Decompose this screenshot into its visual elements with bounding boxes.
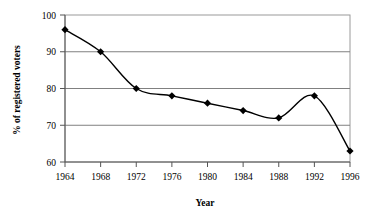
y-tick-label-60: 60	[47, 158, 57, 168]
x-tick-label-1972: 1972	[127, 172, 146, 182]
y-tick-label-80: 80	[47, 84, 57, 94]
x-axis-tick-labels: 1964 1968 1972 1976 1980 1984 1988 1992 …	[56, 172, 360, 182]
chart-canvas: 100 90 80 70 60 1964 1968 1972 1976 1980…	[0, 0, 371, 220]
x-tick-label-1980: 1980	[198, 172, 217, 182]
x-tick-label-1964: 1964	[56, 172, 75, 182]
y-axis-title: % of registered voters	[12, 45, 22, 135]
x-axis-title: Year	[196, 198, 216, 208]
x-tick-label-1976: 1976	[162, 172, 181, 182]
line-chart-figure: 100 90 80 70 60 1964 1968 1972 1976 1980…	[0, 0, 371, 220]
y-tick-label-90: 90	[47, 47, 57, 57]
x-tick-label-1996: 1996	[341, 172, 360, 182]
y-tick-label-70: 70	[47, 121, 57, 131]
x-tick-label-1968: 1968	[91, 172, 110, 182]
x-tick-label-1988: 1988	[269, 172, 288, 182]
x-tick-label-1984: 1984	[234, 172, 253, 182]
y-tick-label-100: 100	[42, 11, 57, 21]
x-tick-label-1992: 1992	[305, 172, 324, 182]
